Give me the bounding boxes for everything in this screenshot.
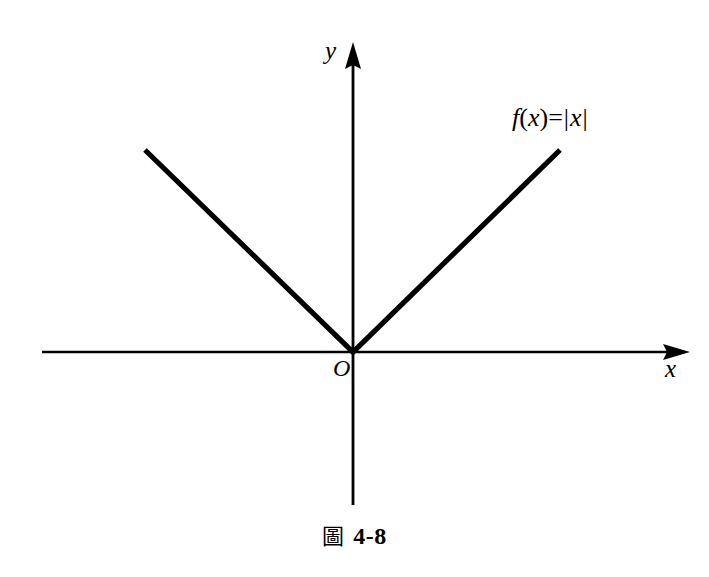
y-axis-label: y <box>325 38 336 63</box>
caption-figure-glyph: 圖 <box>322 524 344 549</box>
figure-caption: 圖4-8 <box>0 524 709 548</box>
formula-close-paren: ) <box>539 103 548 132</box>
formula-open-paren: ( <box>519 103 528 132</box>
figure-page: y x O f(x)=|x| 圖4-8 <box>0 0 709 577</box>
formula-equals-sign: = <box>548 103 563 132</box>
x-axis-label: x <box>665 356 676 381</box>
caption-figure-number: 4-8 <box>353 523 387 549</box>
function-equation-label: f(x)=|x| <box>512 105 589 131</box>
formula-abs-bar-left: | <box>563 103 570 132</box>
origin-label: O <box>333 356 350 380</box>
formula-abs-bar-right: | <box>582 103 589 132</box>
coordinate-plane-graphic <box>0 0 709 577</box>
formula-abs-variable: x <box>570 103 582 132</box>
formula-argument: x <box>528 103 540 132</box>
y-axis-arrowhead <box>345 42 361 69</box>
